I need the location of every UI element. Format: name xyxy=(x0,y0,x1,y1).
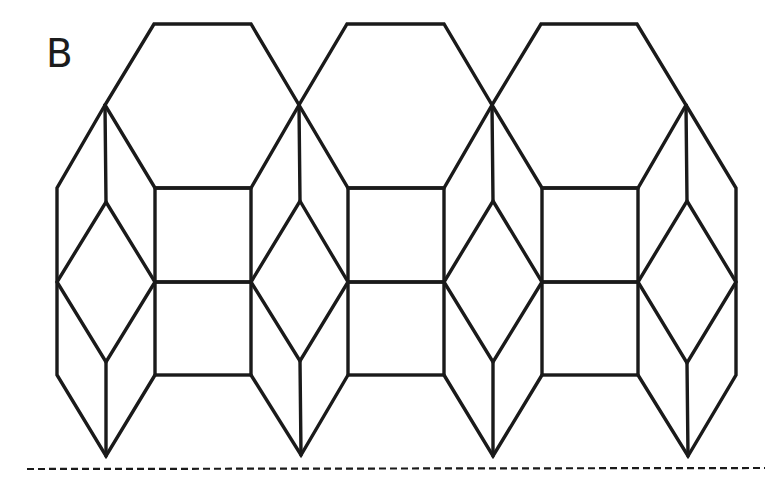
rhombus-column-1 xyxy=(57,105,155,456)
rhombus-column-3 xyxy=(444,105,542,456)
hexagon-face-3 xyxy=(492,24,686,188)
square-face xyxy=(155,282,251,375)
dashed-fold-line xyxy=(27,468,765,469)
square-face xyxy=(542,188,638,282)
hexagon-face-2 xyxy=(299,24,492,188)
square-face xyxy=(155,188,251,282)
square-face xyxy=(348,282,444,375)
rhombus-column-4 xyxy=(638,105,736,456)
square-face xyxy=(348,188,444,282)
square-face xyxy=(542,282,638,375)
hexagon-face-1 xyxy=(105,24,299,188)
net-diagram xyxy=(0,0,774,496)
square-faces xyxy=(155,188,638,375)
rhombus-column-2 xyxy=(251,105,348,455)
